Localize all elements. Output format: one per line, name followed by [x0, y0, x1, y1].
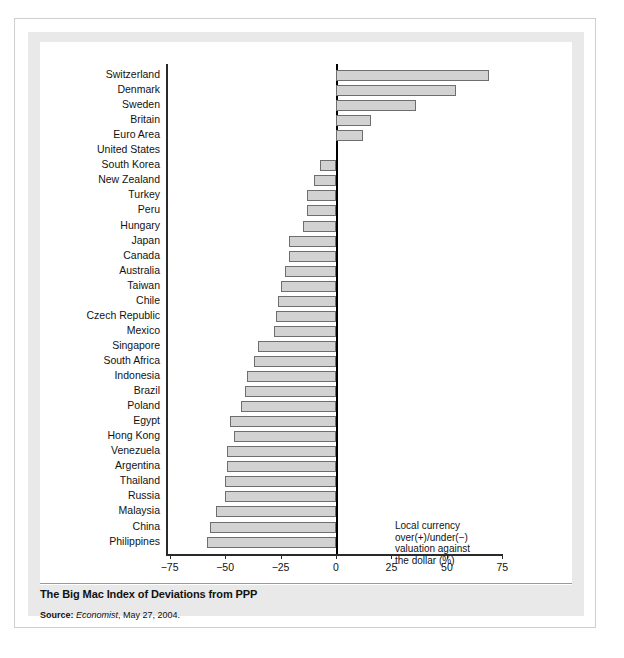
- category-label: New Zealand: [40, 174, 160, 185]
- caption-divider: [40, 583, 572, 584]
- category-label: Czech Republic: [40, 310, 160, 321]
- annotation-line-2: over(+)/under(−): [395, 532, 515, 544]
- x-tick-label: 0: [316, 561, 356, 573]
- bar: [225, 476, 336, 487]
- category-label: Brazil: [40, 385, 160, 396]
- bar: [241, 401, 336, 412]
- bar: [258, 341, 336, 352]
- category-label: Egypt: [40, 415, 160, 426]
- category-label: Hong Kong: [40, 430, 160, 441]
- bar: [210, 522, 336, 533]
- bar: [307, 205, 336, 216]
- bar: [278, 296, 336, 307]
- figure-panel: SwitzerlandDenmarkSwedenBritainEuro Area…: [28, 32, 584, 616]
- bar: [216, 506, 336, 517]
- x-tick: [281, 554, 282, 559]
- bar: [225, 491, 336, 502]
- category-label: South Africa: [40, 355, 160, 366]
- category-label: Thailand: [40, 475, 160, 486]
- bar: [303, 221, 336, 232]
- bar: [336, 85, 456, 96]
- annotation-line-4: the dollar (%): [395, 555, 515, 567]
- bar: [247, 371, 336, 382]
- bar: [307, 190, 336, 201]
- category-label: Philippines: [40, 536, 160, 547]
- bar: [289, 236, 336, 247]
- annotation-line-1: Local currency: [395, 520, 515, 532]
- category-label: Denmark: [40, 84, 160, 95]
- axis-annotation: Local currency over(+)/under(−) valuatio…: [395, 520, 515, 566]
- source-date: , May 27, 2004.: [118, 610, 180, 620]
- category-label: Australia: [40, 265, 160, 276]
- annotation-line-3: valuation against: [395, 543, 515, 555]
- source-label: Source:: [40, 610, 74, 620]
- bar: [285, 266, 336, 277]
- bar: [227, 446, 336, 457]
- chart-card: SwitzerlandDenmarkSwedenBritainEuro Area…: [40, 42, 572, 585]
- chart-title: The Big Mac Index of Deviations from PPP: [40, 588, 257, 600]
- category-label: Chile: [40, 295, 160, 306]
- category-label: China: [40, 521, 160, 532]
- category-label: Japan: [40, 235, 160, 246]
- x-tick-label: −50: [205, 561, 245, 573]
- category-label: Turkey: [40, 189, 160, 200]
- x-tick-label: −25: [261, 561, 301, 573]
- x-tick: [336, 554, 337, 559]
- bar: [289, 251, 336, 262]
- source-note: Source: Economist, May 27, 2004.: [40, 610, 180, 620]
- bar: [274, 326, 336, 337]
- category-label: Peru: [40, 204, 160, 215]
- bar: [207, 537, 336, 548]
- category-label: Singapore: [40, 340, 160, 351]
- source-publication: Economist: [76, 610, 118, 620]
- bar: [336, 70, 489, 81]
- category-label: Argentina: [40, 460, 160, 471]
- category-label: Poland: [40, 400, 160, 411]
- category-label: United States: [40, 144, 160, 155]
- category-label: Canada: [40, 250, 160, 261]
- category-axis-labels: SwitzerlandDenmarkSwedenBritainEuro Area…: [40, 42, 160, 585]
- category-label: Switzerland: [40, 69, 160, 80]
- x-tick: [170, 554, 171, 559]
- category-label: Hungary: [40, 220, 160, 231]
- figure-outer-frame: SwitzerlandDenmarkSwedenBritainEuro Area…: [14, 18, 596, 628]
- bar: [230, 416, 336, 427]
- bar: [336, 115, 371, 126]
- bar: [336, 100, 416, 111]
- category-label: Britain: [40, 114, 160, 125]
- y-axis-line: [166, 64, 168, 554]
- caption-band: The Big Mac Index of Deviations from PPP: [40, 588, 572, 606]
- bar: [314, 175, 336, 186]
- category-label: Sweden: [40, 99, 160, 110]
- bar: [254, 356, 336, 367]
- category-label: Indonesia: [40, 370, 160, 381]
- bar: [336, 130, 363, 141]
- x-tick: [391, 554, 392, 559]
- plot-area: SwitzerlandDenmarkSwedenBritainEuro Area…: [40, 42, 572, 585]
- bar: [281, 281, 336, 292]
- bar: [234, 431, 336, 442]
- category-label: Venezuela: [40, 445, 160, 456]
- category-label: South Korea: [40, 159, 160, 170]
- bar: [227, 461, 336, 472]
- category-label: Taiwan: [40, 280, 160, 291]
- x-tick-label: −75: [150, 561, 190, 573]
- category-label: Malaysia: [40, 505, 160, 516]
- x-tick: [225, 554, 226, 559]
- category-label: Russia: [40, 490, 160, 501]
- bar: [245, 386, 336, 397]
- bar: [320, 160, 336, 171]
- category-label: Euro Area: [40, 129, 160, 140]
- bar: [276, 311, 336, 322]
- category-label: Mexico: [40, 325, 160, 336]
